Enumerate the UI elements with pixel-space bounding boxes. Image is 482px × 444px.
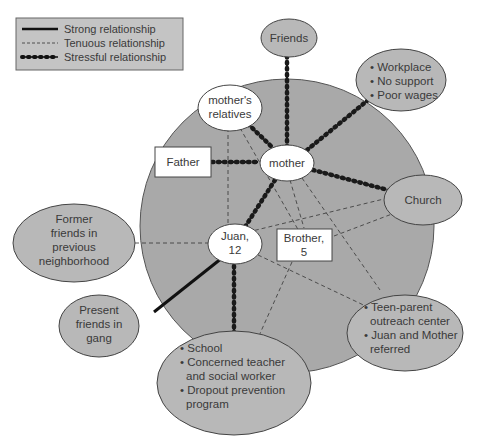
svg-text:12: 12 xyxy=(229,244,242,256)
svg-text:• School: • School xyxy=(180,342,222,354)
node-juan: Juan, 12 xyxy=(208,224,262,264)
svg-text:mother: mother xyxy=(269,157,305,169)
ecomap-diagram: Friends • Workplace • No support • Poor … xyxy=(0,0,482,444)
svg-text:Church: Church xyxy=(404,194,441,206)
svg-text:Stressful relationship: Stressful relationship xyxy=(64,51,166,63)
svg-text:relatives: relatives xyxy=(209,108,252,120)
svg-text:• No support: • No support xyxy=(370,75,434,87)
node-workplace: • Workplace • No support • Poor wages xyxy=(356,49,446,111)
svg-text:outreach center: outreach center xyxy=(370,315,450,327)
node-friends: Friends xyxy=(261,19,317,57)
node-teen-parent: • Teen-parent outreach center • Juan and… xyxy=(347,295,463,371)
legend: Strong relationship Tenuous relationship… xyxy=(16,18,183,70)
svg-text:Juan,: Juan, xyxy=(221,230,249,242)
svg-text:• Workplace: • Workplace xyxy=(370,61,431,73)
svg-text:Present: Present xyxy=(79,304,119,316)
svg-text:• Poor wages: • Poor wages xyxy=(370,89,438,101)
svg-text:5: 5 xyxy=(301,246,307,258)
svg-text:mother's: mother's xyxy=(208,94,252,106)
svg-text:program: program xyxy=(186,398,229,410)
svg-text:gang: gang xyxy=(86,332,112,344)
svg-text:neighborhood: neighborhood xyxy=(39,255,109,267)
node-father: Father xyxy=(155,147,211,177)
svg-text:Former: Former xyxy=(55,213,92,225)
svg-text:• Teen-parent: • Teen-parent xyxy=(364,301,433,313)
node-mother: mother xyxy=(260,145,314,181)
svg-text:Tenuous relationship: Tenuous relationship xyxy=(64,37,165,49)
node-mothers-relatives: mother's relatives xyxy=(198,85,262,131)
node-present-friends: Present friends in gang xyxy=(59,295,139,357)
svg-text:Strong relationship: Strong relationship xyxy=(64,23,156,35)
svg-text:referred: referred xyxy=(370,343,410,355)
node-church: Church xyxy=(384,175,462,225)
svg-text:friends in: friends in xyxy=(76,318,123,330)
svg-text:Brother,: Brother, xyxy=(284,232,324,244)
svg-text:friends in: friends in xyxy=(51,227,98,239)
svg-text:Father: Father xyxy=(166,156,199,168)
svg-text:• Juan and Mother: • Juan and Mother xyxy=(364,329,458,341)
node-former-friends: Former friends in previous neighborhood xyxy=(13,204,135,282)
node-brother: Brother, 5 xyxy=(277,229,332,261)
svg-text:previous: previous xyxy=(52,241,96,253)
svg-text:• Concerned teacher: • Concerned teacher xyxy=(180,356,285,368)
svg-text:and social worker: and social worker xyxy=(186,370,276,382)
svg-text:• Dropout prevention: • Dropout prevention xyxy=(180,384,285,396)
svg-text:Friends: Friends xyxy=(270,32,309,44)
node-school: • School • Concerned teacher and social … xyxy=(157,331,311,435)
